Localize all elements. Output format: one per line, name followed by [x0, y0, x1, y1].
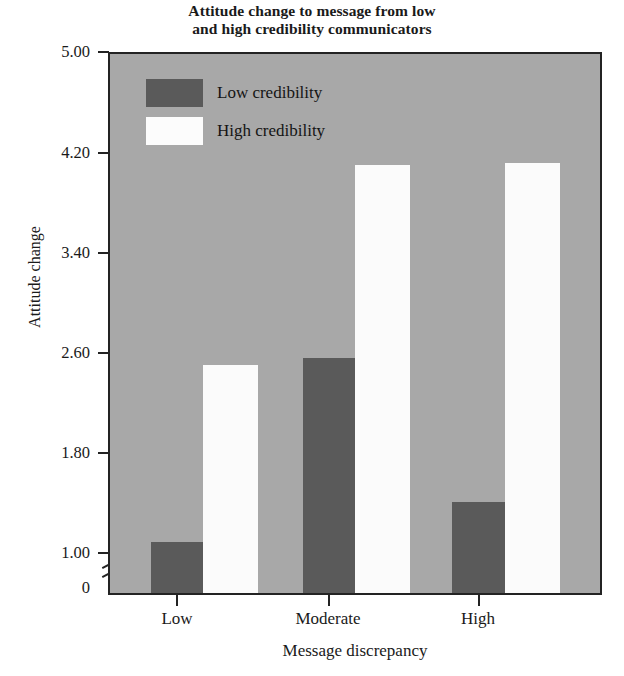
x-tick-label-moderate: Moderate	[273, 609, 383, 629]
legend-swatch-low-credibility	[146, 79, 203, 107]
x-tick-mark-high	[478, 595, 480, 606]
legend-label-high-credibility: High credibility	[217, 121, 325, 140]
legend-item-high-credibility: High credibility	[146, 116, 325, 145]
bar-moderate-discrepancy-low-credibility	[303, 358, 355, 593]
x-axis-title: Message discrepancy	[108, 641, 602, 661]
x-tick-label-high: High	[423, 609, 533, 629]
bar-high-discrepancy-low-credibility	[452, 502, 505, 593]
y-tick-label-4-20: 4.20	[28, 145, 90, 161]
bar-low-discrepancy-high-credibility	[203, 365, 258, 593]
legend-label-low-credibility: Low credibility	[217, 83, 322, 102]
x-tick-mark-moderate	[328, 595, 330, 606]
chart-title: Attitude change to message from low and …	[112, 2, 512, 38]
x-tick-label-low: Low	[122, 609, 232, 629]
y-tick-label-2-60: 2.60	[28, 345, 90, 361]
plot-area: Low credibility High credibility	[108, 52, 602, 595]
legend-swatch-high-credibility	[146, 117, 203, 145]
bar-low-discrepancy-low-credibility	[151, 542, 203, 593]
x-tick-mark-low	[176, 595, 178, 606]
chart-title-line-1: Attitude change to message from low	[188, 2, 435, 19]
y-axis-title: Attitude change	[26, 212, 44, 342]
y-tick-label-1-80: 1.80	[28, 445, 90, 461]
bar-moderate-discrepancy-high-credibility	[355, 165, 410, 593]
legend: Low credibility High credibility	[146, 78, 325, 154]
y-tick-label-1-00: 1.00	[28, 545, 90, 561]
y-tick-label-0: 0	[28, 580, 90, 596]
chart-title-line-2: and high credibility communicators	[112, 20, 512, 38]
bar-chart-figure: Attitude change to message from low and …	[0, 0, 624, 676]
y-tick-label-5-00: 5.00	[28, 44, 90, 60]
legend-item-low-credibility: Low credibility	[146, 78, 325, 107]
bar-high-discrepancy-high-credibility	[505, 163, 560, 593]
